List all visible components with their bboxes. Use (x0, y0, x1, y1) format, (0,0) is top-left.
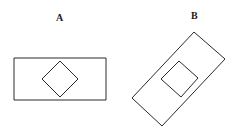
diagram-canvas (0, 0, 235, 131)
figure-a-diamond (42, 61, 78, 97)
figure-a-rectangle (14, 58, 106, 100)
figure-b-square (161, 61, 198, 97)
figure-b-rotated-rectangle (132, 32, 225, 126)
